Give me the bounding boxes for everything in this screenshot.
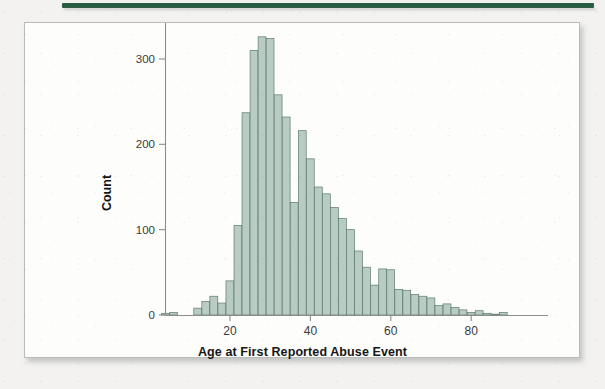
histogram-bar: [419, 296, 427, 315]
histogram-bar: [218, 303, 226, 315]
histogram-bar: [242, 113, 250, 315]
histogram-bar: [371, 285, 379, 315]
histogram-bar: [331, 207, 339, 315]
histogram-bar: [194, 308, 202, 315]
x-tick-label: 20: [223, 324, 237, 338]
y-tick-label: 300: [136, 53, 155, 65]
y-axis-title: Count: [100, 174, 114, 211]
x-axis-title: Age at First Reported Abuse Event: [0, 345, 605, 359]
histogram-bar: [387, 270, 395, 315]
histogram-bar: [339, 219, 347, 315]
figure-panel: 010020030020406080Count: [24, 22, 580, 358]
histogram-svg: 010020030020406080Count: [25, 23, 581, 359]
histogram-bar: [427, 298, 435, 315]
x-tick-label: 60: [384, 324, 398, 338]
histogram-bar: [274, 95, 282, 315]
histogram-bar: [202, 301, 210, 315]
histogram-bar: [411, 295, 419, 315]
histogram-bar: [234, 225, 242, 315]
histogram-bar: [314, 187, 322, 315]
histogram-bar: [226, 281, 234, 315]
histogram-bar: [355, 251, 363, 315]
histogram-bar: [170, 312, 178, 315]
x-tick-label: 80: [465, 324, 479, 338]
y-tick-label: 200: [136, 138, 155, 150]
histogram-bar: [443, 304, 451, 315]
histogram-bar: [451, 307, 459, 315]
histogram-bar: [467, 312, 475, 315]
x-tick-label: 40: [304, 324, 318, 338]
y-tick-label: 100: [136, 224, 155, 236]
histogram-bar: [266, 39, 274, 315]
histogram-bar: [306, 159, 314, 315]
histogram-bars: [162, 37, 508, 315]
histogram-plot: 010020030020406080Count: [25, 23, 579, 357]
histogram-bar: [395, 289, 403, 315]
histogram-bar: [210, 296, 218, 315]
histogram-bar: [298, 131, 306, 315]
histogram-bar: [282, 117, 290, 315]
histogram-bar: [491, 314, 499, 315]
histogram-bar: [290, 202, 298, 315]
histogram-bar: [250, 50, 258, 315]
y-tick-label: 0: [149, 309, 155, 321]
histogram-bar: [475, 311, 483, 315]
histogram-bar: [403, 290, 411, 315]
histogram-bar: [499, 312, 507, 315]
header-rule-shadow: [64, 8, 596, 10]
page-root: 010020030020406080Count Age at First Rep…: [0, 0, 605, 389]
histogram-bar: [459, 310, 467, 315]
histogram-bar: [435, 306, 443, 315]
histogram-bar: [379, 269, 387, 315]
x-axis-ticks: 20406080: [223, 315, 478, 338]
y-axis-ticks: 0100200300: [136, 53, 166, 321]
histogram-bar: [322, 194, 330, 315]
histogram-bar: [258, 37, 266, 315]
histogram-bar: [347, 230, 355, 315]
histogram-bar: [363, 267, 371, 315]
histogram-bar: [483, 313, 491, 315]
